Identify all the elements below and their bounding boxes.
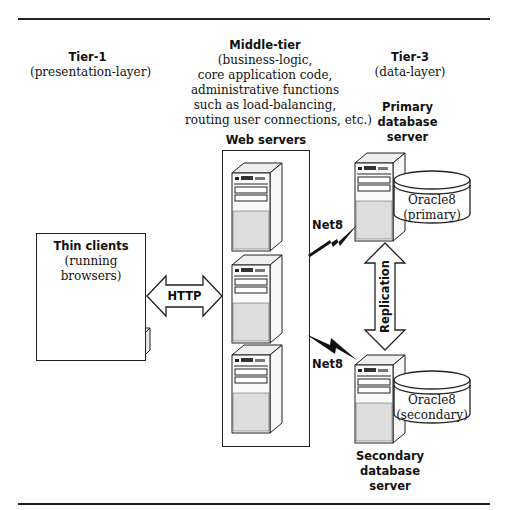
secondary-db-role-text: (secondary) bbox=[394, 408, 470, 423]
replication-label-text: Replication bbox=[378, 257, 393, 337]
web-server-3-icon bbox=[232, 345, 282, 433]
web-server-2-icon bbox=[232, 255, 282, 343]
http-label: HTTP bbox=[166, 289, 203, 304]
primary-db-name: Oracle8 (primary) bbox=[394, 193, 470, 223]
secondary-db-title-line: Secondary bbox=[345, 449, 435, 464]
net8-bottom-label-text: Net8 bbox=[310, 357, 345, 372]
primary-db-role-text: (primary) bbox=[394, 208, 470, 223]
replication-label: Replication bbox=[378, 257, 393, 337]
net8-bottom-label: Net8 bbox=[310, 357, 345, 372]
thin-clients-title: Thin clients bbox=[36, 239, 146, 254]
secondary-db-title-line: server bbox=[345, 479, 435, 494]
http-label-text: HTTP bbox=[166, 289, 203, 304]
thin-clients-line: (running bbox=[36, 254, 146, 269]
secondary-db-title: Secondary database server bbox=[345, 449, 435, 494]
thin-clients-label: Thin clients (running browsers) bbox=[36, 239, 146, 284]
secondary-db-name-text: Oracle8 bbox=[394, 393, 470, 408]
secondary-db-name: Oracle8 (secondary) bbox=[394, 393, 470, 423]
net8-top-label: Net8 bbox=[310, 218, 345, 233]
primary-db-name-text: Oracle8 bbox=[394, 193, 470, 208]
thin-clients-line: browsers) bbox=[36, 269, 146, 284]
secondary-db-title-line: database bbox=[345, 464, 435, 479]
net8-top-label-text: Net8 bbox=[310, 218, 345, 233]
web-server-1-icon bbox=[232, 163, 282, 251]
